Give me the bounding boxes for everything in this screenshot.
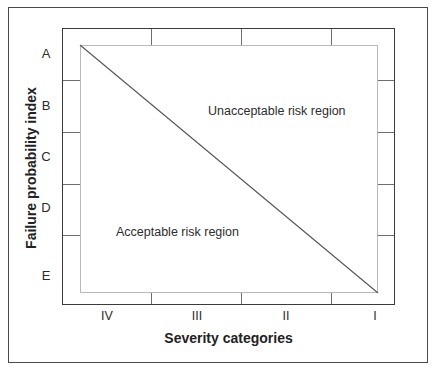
- x-tick-label-iv: IV: [87, 310, 127, 323]
- y-band-divider-2: [63, 132, 81, 133]
- y-axis-title: Failure probability index: [23, 58, 39, 278]
- y-band-divider-right-3: [376, 184, 394, 185]
- y-tick-label-c: C: [34, 150, 58, 163]
- y-band-divider-right-1: [376, 80, 394, 81]
- y-tick-label-e: E: [34, 269, 58, 282]
- x-tick-label-ii: II: [266, 310, 306, 323]
- y-band-divider-4: [63, 235, 81, 236]
- y-band-divider-1: [63, 80, 81, 81]
- y-tick-label-a: A: [34, 47, 58, 60]
- y-band-divider-3: [63, 184, 81, 185]
- x-axis-title: Severity categories: [62, 330, 395, 346]
- risk-matrix-figure: Failure probability index A B C D E Unac…: [0, 0, 438, 372]
- diagonal-line: [80, 45, 378, 293]
- risk-boundary-line: [80, 45, 378, 293]
- y-tick-label-d: D: [34, 201, 58, 214]
- y-band-divider-right-4: [376, 235, 394, 236]
- x-tick-label-iii: III: [177, 310, 217, 323]
- y-band-divider-right-2: [376, 132, 394, 133]
- x-band-divider-top-3: [331, 29, 332, 46]
- x-band-divider-top-1: [151, 29, 152, 46]
- unacceptable-region-label: Unacceptable risk region: [208, 104, 346, 118]
- y-tick-label-b: B: [34, 99, 58, 112]
- x-band-divider-top-2: [241, 29, 242, 46]
- x-tick-label-i: I: [355, 310, 395, 323]
- acceptable-region-label: Acceptable risk region: [116, 225, 239, 239]
